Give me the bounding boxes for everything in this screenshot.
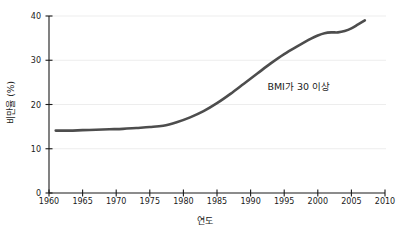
series-annotation-label: BMI가 30 이상 (267, 79, 330, 93)
data-series (56, 20, 365, 130)
y-axis-tick-label: 20 (21, 100, 41, 109)
y-axis-tick-label: 10 (21, 144, 41, 153)
x-axis-tick-label: 1965 (72, 197, 92, 206)
series-line (56, 20, 365, 130)
x-axis-tick-label: 1975 (140, 197, 160, 206)
y-axis-tick-label: 30 (21, 56, 41, 65)
x-axis-tick-label: 2010 (375, 197, 395, 206)
x-axis-tick-label: 2000 (308, 197, 328, 206)
chart-plot-area (0, 0, 411, 244)
x-axis-title: 연도 (0, 214, 411, 227)
x-axis-tick-label: 1960 (39, 197, 59, 206)
obesity-rate-line-chart: 1960196519701975198019851990199520002005… (0, 0, 411, 244)
x-axis-tick-label: 2005 (341, 197, 361, 206)
x-axis-tick-label: 1980 (173, 197, 193, 206)
y-axis-tick-label: 40 (21, 12, 41, 21)
y-axis-tick-label: 0 (21, 189, 41, 198)
x-axis-tick-label: 1985 (207, 197, 227, 206)
x-axis-tick-label: 1990 (240, 197, 260, 206)
x-axis-tick-label: 1995 (274, 197, 294, 206)
y-axis-title: 비만율 (%) (4, 63, 17, 143)
x-axis-tick-label: 1970 (106, 197, 126, 206)
